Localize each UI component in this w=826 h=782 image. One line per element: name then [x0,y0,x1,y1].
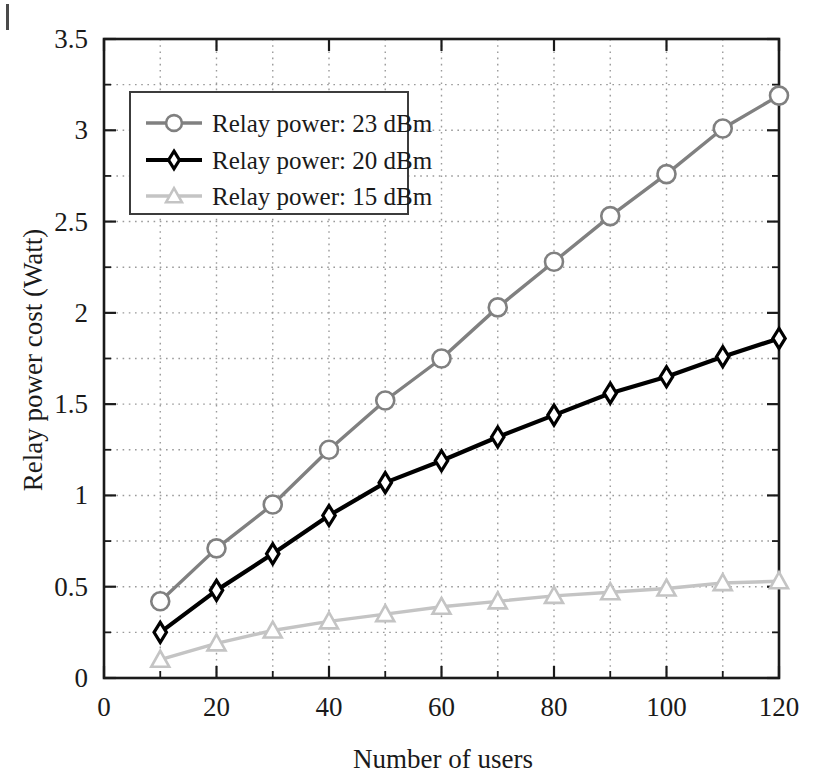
marker-diamond [548,405,560,425]
marker-circle [714,119,732,137]
y-tick-label: 3 [75,115,89,145]
y-tick-label: 0 [75,663,89,693]
marker-circle [151,592,169,610]
marker-diamond [210,580,222,600]
x-tick-label: 80 [541,692,568,722]
marker-circle [208,539,226,557]
legend-label: Relay power: 15 dBm [212,183,433,210]
x-tick-label: 100 [646,692,687,722]
marker-diamond [604,383,616,403]
marker-circle [658,165,676,183]
marker-diamond [154,622,166,642]
marker-diamond [773,328,785,348]
marker-diamond [660,367,672,387]
x-tick-label: 0 [97,692,111,722]
marker-circle [376,391,394,409]
x-axis-title: Number of users [353,744,533,774]
figure-container: 020406080100120 00.511.522.533.5 Number … [0,0,826,782]
y-axis-title: Relay power cost (Watt) [18,229,48,492]
legend: Relay power: 23 dBmRelay power: 20 dBmRe… [130,92,433,214]
marker-diamond [717,347,729,367]
marker-diamond [267,544,279,564]
data-series [154,328,785,642]
page-edge-mark [6,4,9,30]
legend-label: Relay power: 23 dBm [212,110,433,137]
marker-diamond [323,506,335,526]
marker-diamond [435,451,447,471]
y-tick-label: 3.5 [54,24,88,54]
x-tick-label: 60 [428,692,455,722]
marker-circle [545,253,563,271]
marker-circle [320,441,338,459]
y-tick-label: 0.5 [54,572,88,602]
x-tick-labels: 020406080100120 [97,692,799,722]
legend-label: Relay power: 20 dBm [212,147,433,174]
y-tick-label: 1.5 [54,389,88,419]
marker-circle [433,350,451,368]
marker-circle [264,496,282,514]
series-line [160,581,779,660]
x-tick-label: 20 [203,692,230,722]
relay-power-cost-line-chart: 020406080100120 00.511.522.533.5 Number … [0,0,826,782]
y-tick-label: 2.5 [54,207,88,237]
y-tick-label: 1 [75,480,89,510]
marker-circle [489,298,507,316]
x-tick-label: 120 [759,692,800,722]
y-tick-label: 2 [75,298,89,328]
marker-circle [770,87,788,105]
marker-diamond [492,427,504,447]
y-tick-labels: 00.511.522.533.5 [54,24,88,693]
x-tick-label: 40 [316,692,343,722]
marker-circle [601,207,619,225]
marker-circle [166,115,182,131]
marker-diamond [379,473,391,493]
